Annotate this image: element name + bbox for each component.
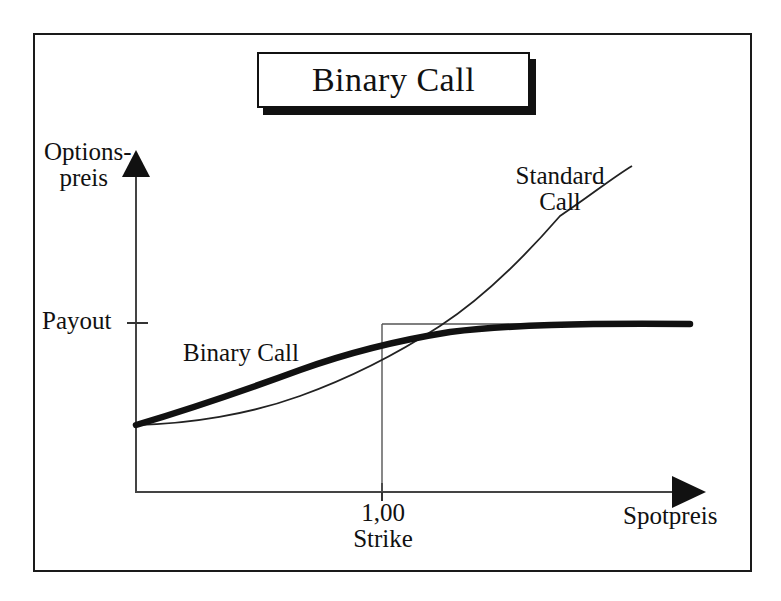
strike-tick-value: 1,00	[361, 499, 405, 526]
standard-call-annotation-line2: Call	[505, 189, 615, 215]
payout-tick-label: Payout	[42, 308, 111, 334]
binary-call-annotation: Binary Call	[183, 340, 299, 366]
standard-call-annotation-line1: Standard	[516, 162, 605, 189]
y-axis-label-line2: preis	[44, 165, 132, 191]
y-axis-label-line1: Options-	[44, 138, 132, 165]
strike-tick-name: Strike	[337, 526, 429, 552]
y-axis-label: Options- preis	[44, 139, 132, 192]
x-axis-label: Spotpreis	[623, 503, 717, 529]
strike-tick-label: 1,00 Strike	[337, 500, 429, 553]
standard-call-annotation: Standard Call	[505, 163, 615, 216]
binary-call-figure: Binary Call Options- preis Payout Binary…	[0, 0, 781, 601]
